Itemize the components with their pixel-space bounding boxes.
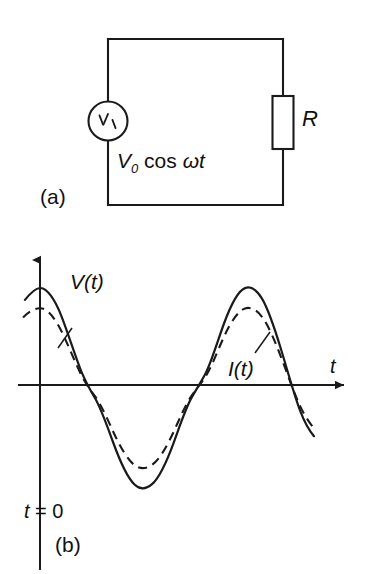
source-voltage-omega: ω <box>183 149 199 172</box>
current-curve-label: I(t) <box>228 358 254 379</box>
ac-source-icon <box>89 102 128 141</box>
source-voltage-cos: cos <box>138 149 182 172</box>
voltage-curve <box>25 288 314 489</box>
panel-b-caption: (b) <box>55 534 81 555</box>
voltage-curve-label: V(t) <box>70 271 104 292</box>
time-origin-value: = 0 <box>30 500 64 522</box>
current-label-leader <box>255 332 270 353</box>
panel-a-caption: (a) <box>40 186 66 207</box>
source-voltage-label: V0 cos ωt <box>117 150 205 175</box>
resistor-label: R <box>302 108 318 130</box>
time-origin-label: t = 0 <box>24 501 63 521</box>
source-voltage-time: t <box>199 149 205 172</box>
waveform-plot <box>0 240 368 574</box>
resistor-icon <box>273 96 294 149</box>
figure-root: (a) V0 cos ωt R V(t) I(t) t t = 0 (b) <box>0 0 368 574</box>
source-voltage-symbol: V <box>117 149 131 172</box>
time-axis-label: t <box>330 356 336 376</box>
